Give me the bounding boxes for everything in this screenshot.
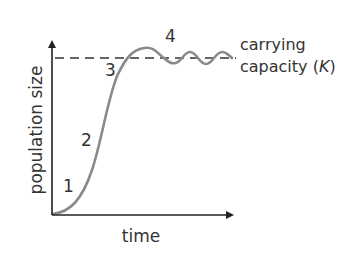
phase-label-1: 1 [63, 176, 74, 196]
logistic-growth-diagram: population size time 1 2 3 4 carrying ca… [0, 0, 356, 257]
carrying-capacity-suffix: ) [329, 57, 335, 76]
y-axis-label: population size [26, 66, 46, 195]
phase-label-4: 4 [165, 26, 176, 46]
carrying-capacity-label-line2: capacity (K) [240, 57, 336, 76]
x-axis-label: time [122, 226, 160, 246]
carrying-capacity-prefix: capacity ( [240, 57, 319, 76]
phase-label-3: 3 [105, 60, 116, 80]
population-growth-curve [53, 48, 232, 214]
carrying-capacity-label-line1: carrying [240, 35, 306, 54]
phase-label-2: 2 [81, 130, 92, 150]
